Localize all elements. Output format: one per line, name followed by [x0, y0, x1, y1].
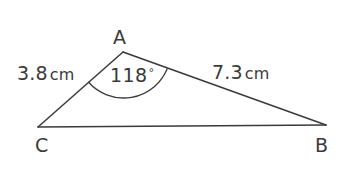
angle-a-value: 118: [110, 64, 147, 86]
angle-measure-label-a: 118°: [110, 66, 154, 85]
side-ca-unit: cm: [50, 65, 74, 84]
side-length-label-ca: 3.8cm: [17, 64, 74, 83]
triangle-drawing: [0, 0, 340, 196]
side-length-label-ab: 7.3cm: [212, 63, 269, 82]
side-ca-value: 3.8: [17, 62, 48, 84]
side-ab-unit: cm: [245, 64, 269, 83]
side-cb-line: [38, 125, 326, 127]
vertex-label-b: B: [315, 136, 328, 155]
side-ab-value: 7.3: [212, 61, 243, 83]
geometry-figure: A C B 3.8cm 7.3cm 118°: [0, 0, 340, 196]
vertex-label-a: A: [113, 28, 126, 47]
degree-symbol-icon: °: [148, 66, 154, 79]
vertex-label-c: C: [35, 136, 48, 155]
